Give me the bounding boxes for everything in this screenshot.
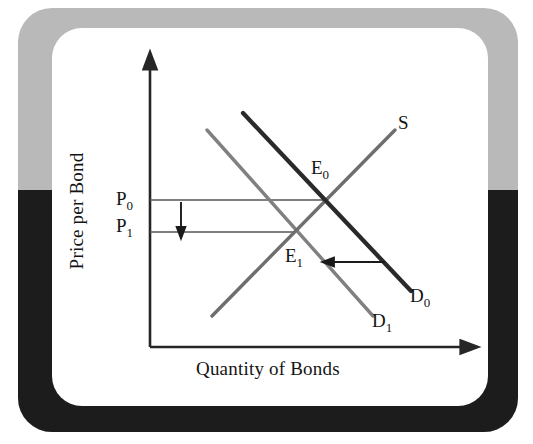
price-p0-label-text: P — [116, 188, 127, 209]
demand-d0-label-text: D — [410, 285, 424, 306]
price-p0-label: P0 — [116, 188, 133, 214]
figure-container: Price per Bond Quantity of Bonds S D0 D1… — [0, 0, 533, 444]
price-p1-label-sub: 1 — [127, 225, 134, 240]
x-axis-title: Quantity of Bonds — [196, 358, 340, 380]
supply-curve-label: S — [398, 112, 409, 134]
demand-d1-label-text: D — [372, 310, 386, 331]
equilibrium-e0-label: E0 — [311, 157, 329, 183]
price-p0-label-sub: 0 — [127, 198, 134, 213]
demand-d0-label: D0 — [410, 285, 430, 311]
equilibrium-e1-label-text: E — [285, 245, 297, 266]
demand-d0-label-sub: 0 — [424, 295, 431, 310]
y-axis-title: Price per Bond — [66, 121, 88, 301]
price-p1-label-text: P — [116, 215, 127, 236]
equilibrium-e1-label: E1 — [285, 245, 303, 271]
price-p1-label: P1 — [116, 215, 133, 241]
equilibrium-e1-label-sub: 1 — [297, 255, 304, 270]
supply-curve-label-text: S — [398, 112, 409, 133]
equilibrium-e0-label-text: E — [311, 157, 323, 178]
equilibrium-e0-label-sub: 0 — [323, 167, 330, 182]
demand-d1-label: D1 — [372, 310, 392, 336]
demand-d1-label-sub: 1 — [386, 320, 393, 335]
supply-curve-s — [212, 130, 395, 316]
